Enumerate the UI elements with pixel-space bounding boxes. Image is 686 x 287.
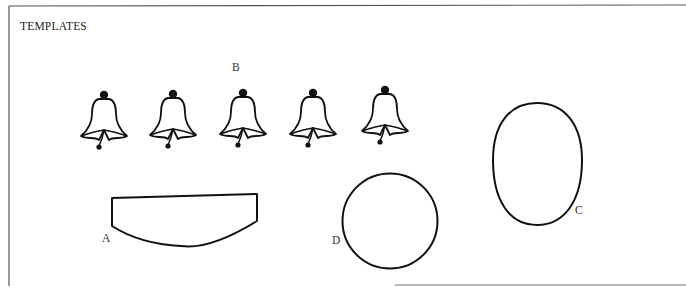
bell-icon	[290, 89, 336, 148]
bell-icon	[220, 89, 266, 148]
bell-icon	[81, 91, 127, 150]
template-b-bells	[81, 86, 408, 150]
frame-top-line	[9, 5, 686, 6]
bell-icon	[362, 86, 408, 145]
template-a-shape	[112, 194, 257, 246]
label-template-c: C	[575, 205, 583, 217]
label-template-a: A	[102, 233, 110, 245]
template-d-circle	[343, 174, 438, 269]
templates-page: TEMPLATES B A D C	[0, 0, 686, 287]
bell-icon	[150, 90, 196, 149]
page-heading: TEMPLATES	[20, 20, 87, 32]
label-template-b: B	[232, 62, 240, 74]
label-template-d: D	[332, 235, 340, 247]
template-c-oval	[493, 103, 582, 225]
